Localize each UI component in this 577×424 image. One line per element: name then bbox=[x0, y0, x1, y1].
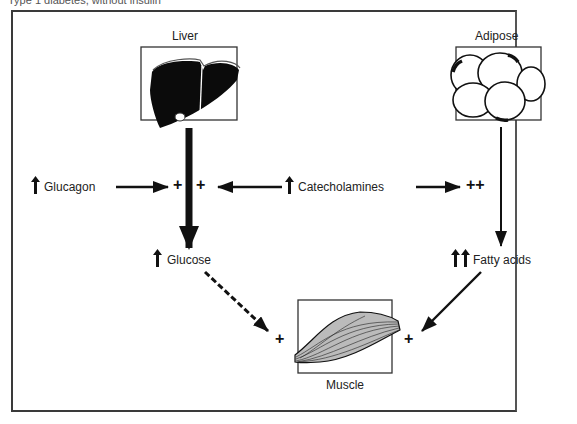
muscle-icon bbox=[295, 300, 400, 373]
glucagon-up-icon bbox=[31, 176, 40, 194]
liver-glucagon-effect: + bbox=[173, 176, 182, 194]
diagram-canvas bbox=[0, 0, 577, 424]
fatty-acids-label: Fatty acids bbox=[473, 253, 531, 267]
catecholamines-up-icon bbox=[285, 176, 294, 194]
fatty-acids-up-icon-1 bbox=[451, 249, 460, 267]
fatty-acids-up-icon-2 bbox=[461, 249, 470, 267]
glucagon-label: Glucagon bbox=[44, 180, 95, 194]
muscle-glucose-effect: + bbox=[275, 330, 284, 348]
liver-label: Liver bbox=[172, 29, 198, 43]
catecholamines-label: Catecholamines bbox=[298, 180, 384, 194]
liver-catecholamines-effect: + bbox=[196, 176, 205, 194]
muscle-fatty-acids-effect: + bbox=[404, 330, 413, 348]
adipose-icon bbox=[451, 47, 545, 120]
fatty-acids-to-muscle-arrow bbox=[422, 272, 481, 331]
glucose-label: Glucose bbox=[167, 253, 211, 267]
muscle-label: Muscle bbox=[326, 378, 364, 392]
glucose-to-muscle-arrow bbox=[205, 272, 268, 331]
adipose-catecholamines-effect: ++ bbox=[466, 176, 485, 194]
liver-icon bbox=[141, 47, 240, 128]
adipose-label: Adipose bbox=[475, 29, 518, 43]
glucose-up-icon bbox=[153, 249, 162, 267]
up-arrow-icons bbox=[31, 176, 470, 267]
